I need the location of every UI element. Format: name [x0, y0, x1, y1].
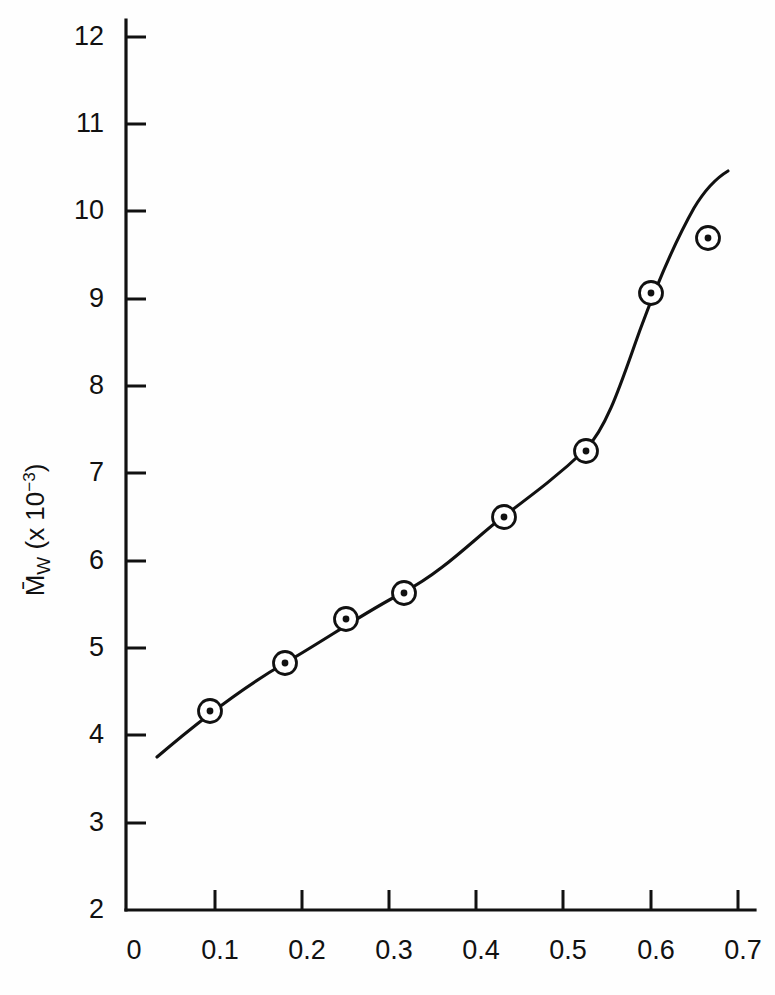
x-tick-label-0.5: 0.5 [549, 935, 587, 965]
axes-group [126, 20, 755, 910]
y-axis-title-symbol: M̄ [20, 575, 50, 597]
y-tick-label-5: 5 [89, 632, 104, 662]
x-tick-label-0: 0 [126, 935, 141, 965]
x-tick-label-0.4: 0.4 [462, 935, 500, 965]
y-tick-marks [126, 37, 146, 823]
y-tick-label-8: 8 [89, 370, 104, 400]
y-tick-label-4: 4 [89, 719, 104, 749]
x-tick-label-0.7: 0.7 [724, 935, 762, 965]
y-axis-title-subscript: W [33, 557, 54, 575]
data-point [199, 700, 222, 723]
marker-center-dot [282, 660, 289, 667]
y-axis-title-scale-prefix: (x 10 [20, 492, 50, 557]
data-point [335, 608, 358, 631]
y-axis-title: M̄W (x 10−3) [20, 464, 54, 597]
x-tick-label-0.6: 0.6 [637, 935, 675, 965]
x-tick-label-0.3: 0.3 [375, 935, 413, 965]
data-point [640, 282, 663, 305]
figure-panel: 12 11 10 9 8 7 6 5 4 3 2 0 0.1 0.2 [0, 0, 775, 995]
marker-center-dot [343, 616, 350, 623]
x-tick-marks [215, 890, 738, 910]
y-tick-label-2: 2 [89, 894, 104, 924]
y-tick-labels: 12 11 10 9 8 7 6 5 4 3 2 [74, 21, 104, 924]
y-axis-title-scale-suffix: ) [20, 464, 50, 473]
data-point [697, 227, 720, 250]
chart-canvas: 12 11 10 9 8 7 6 5 4 3 2 0 0.1 0.2 [0, 0, 775, 995]
y-axis-title-group: M̄W (x 10−3) [20, 464, 54, 597]
marker-center-dot [705, 235, 712, 242]
y-tick-label-6: 6 [89, 545, 104, 575]
marker-center-dot [207, 708, 214, 715]
x-tick-labels: 0 0.1 0.2 0.3 0.4 0.5 0.6 0.7 [126, 935, 761, 965]
fit-curve [157, 171, 728, 757]
y-tick-label-3: 3 [89, 807, 104, 837]
y-tick-label-11: 11 [76, 108, 104, 138]
marker-center-dot [401, 590, 408, 597]
data-point [493, 506, 516, 529]
y-tick-label-7: 7 [89, 457, 104, 487]
data-point [393, 582, 416, 605]
marker-center-dot [501, 514, 508, 521]
y-tick-label-9: 9 [89, 283, 104, 313]
x-tick-label-0.1: 0.1 [201, 935, 239, 965]
data-point [274, 652, 297, 675]
data-point-markers [199, 227, 720, 723]
y-tick-label-12: 12 [74, 21, 104, 51]
marker-center-dot [648, 290, 655, 297]
y-axis-title-exponent: −3 [20, 472, 39, 491]
data-point [575, 440, 598, 463]
x-tick-label-0.2: 0.2 [288, 935, 326, 965]
marker-center-dot [583, 448, 590, 455]
y-tick-label-10: 10 [74, 195, 104, 225]
